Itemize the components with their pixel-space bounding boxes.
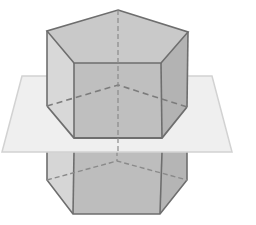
upper-front-right-edge [161,63,162,138]
lower-right-face [160,152,187,214]
prism-upper-part [47,10,188,152]
lower-left-face [47,152,74,214]
prism-lower-part [47,152,187,214]
upper-right-edge [187,32,188,107]
prism-plane-diagram [0,0,256,225]
diagram-canvas [0,0,256,225]
lower-front-left-edge [73,152,74,214]
